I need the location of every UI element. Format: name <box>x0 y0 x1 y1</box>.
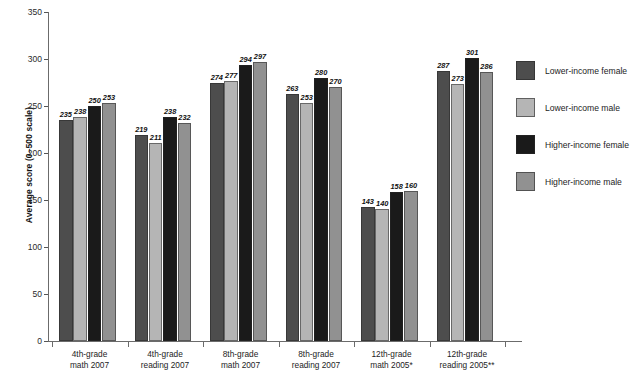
y-tick-label: 0 <box>16 337 42 346</box>
bar <box>329 87 343 341</box>
y-tick-label: 250 <box>16 102 42 111</box>
bar <box>286 94 300 341</box>
x-axis-group-label-line: 12th-grade <box>420 349 515 360</box>
y-tick-label: 200 <box>16 149 42 158</box>
plot-area: 2352382502532192112382322742772942972632… <box>48 12 508 341</box>
bar <box>224 81 238 341</box>
bar-value-label: 297 <box>249 53 271 60</box>
x-tick-mark <box>430 342 431 347</box>
bar <box>73 117 87 341</box>
legend-swatch-icon <box>516 172 535 191</box>
x-tick-mark <box>128 342 129 347</box>
bar <box>135 135 149 341</box>
legend-item-label: Higher-income female <box>545 140 629 150</box>
bar-value-label: 160 <box>400 182 422 189</box>
bar-value-label: 219 <box>131 126 153 133</box>
legend-swatch-icon <box>516 61 535 80</box>
bar-value-label: 232 <box>174 114 196 121</box>
x-tick-mark <box>354 342 355 347</box>
bar <box>361 207 375 341</box>
bar-chart: Average score (0–500 scale) 350300250200… <box>0 0 640 374</box>
bar <box>59 120 73 341</box>
legend-item-label: Lower-income male <box>545 103 620 113</box>
bar-value-label: 263 <box>282 85 304 92</box>
y-tick-label: 150 <box>16 196 42 205</box>
x-tick-mark <box>505 342 506 347</box>
bar-value-label: 301 <box>461 49 483 56</box>
bar <box>210 83 224 341</box>
bar <box>102 103 116 341</box>
bar <box>253 62 267 341</box>
bar <box>375 209 389 341</box>
y-tick-label: 50 <box>16 290 42 299</box>
bar <box>239 65 253 341</box>
bar <box>437 71 451 341</box>
legend-item[interactable]: Lower-income female <box>516 52 640 89</box>
bar <box>404 191 418 341</box>
x-tick-mark <box>52 342 53 347</box>
bar-value-label: 270 <box>325 78 347 85</box>
bar-value-label: 253 <box>98 94 120 101</box>
bar-value-label: 287 <box>433 62 455 69</box>
bar-value-label: 286 <box>476 63 498 70</box>
legend-item[interactable]: Lower-income male <box>516 89 640 126</box>
legend-item[interactable]: Higher-income male <box>516 163 640 200</box>
bar <box>149 143 163 341</box>
bar <box>178 123 192 341</box>
bar-value-label: 280 <box>310 69 332 76</box>
y-tick-mark <box>44 341 48 342</box>
legend-item[interactable]: Higher-income female <box>516 126 640 163</box>
legend-item-label: Lower-income female <box>545 66 627 76</box>
bar <box>163 117 177 341</box>
footnote-text <box>40 368 620 374</box>
bar <box>88 106 102 341</box>
y-tick-label: 300 <box>16 55 42 64</box>
y-tick-label: 100 <box>16 243 42 252</box>
bar <box>451 84 465 341</box>
x-axis-line <box>48 341 522 342</box>
x-tick-mark <box>203 342 204 347</box>
bar <box>300 103 314 341</box>
bar <box>390 192 404 341</box>
bar <box>465 58 479 341</box>
legend-swatch-icon <box>516 98 535 117</box>
chart-legend: Lower-income femaleLower-income maleHigh… <box>516 52 640 200</box>
x-tick-mark <box>279 342 280 347</box>
legend-swatch-icon <box>516 135 535 154</box>
bar <box>314 78 328 341</box>
bar <box>480 72 494 341</box>
y-tick-label: 350 <box>16 8 42 17</box>
legend-item-label: Higher-income male <box>545 177 622 187</box>
